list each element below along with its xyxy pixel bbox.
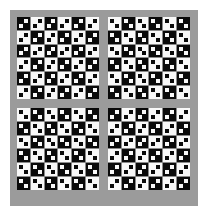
corner-dot [60, 93, 64, 97]
checker-cell [149, 108, 162, 121]
corner-dot [179, 19, 183, 23]
checker-cell [72, 108, 85, 121]
checker-cell [72, 136, 85, 149]
corner-dot [51, 47, 55, 51]
corner-dot [24, 170, 28, 174]
checker-cell [58, 122, 71, 135]
corner-dot [24, 156, 28, 160]
corner-dot [142, 110, 146, 114]
corner-dot [179, 115, 183, 119]
corner-dot [51, 184, 55, 188]
corner-dot [47, 24, 51, 28]
corner-dot [151, 74, 155, 78]
corner-dot [110, 74, 114, 78]
corner-dot [60, 165, 64, 169]
corner-dot [138, 156, 142, 160]
checker-cell [58, 136, 71, 149]
corner-dot [51, 19, 55, 23]
checker-cell [149, 72, 162, 85]
checker-cell [108, 122, 121, 135]
corner-dot [79, 115, 83, 119]
checker-cell [177, 45, 190, 58]
corner-dot [129, 65, 133, 69]
corner-dot [142, 38, 146, 42]
corner-dot [33, 110, 37, 114]
corner-dot [24, 115, 28, 119]
checker-cell [17, 122, 30, 135]
corner-dot [156, 93, 160, 97]
checker-cell [45, 163, 58, 176]
corner-dot [24, 129, 28, 133]
corner-dot [51, 142, 55, 146]
corner-dot [93, 156, 97, 160]
corner-dot [142, 179, 146, 183]
corner-dot [110, 142, 114, 146]
corner-dot [93, 170, 97, 174]
corner-dot [179, 156, 183, 160]
corner-dot [170, 24, 174, 28]
checker-cell [122, 31, 135, 44]
corner-dot [129, 165, 133, 169]
corner-dot [165, 170, 169, 174]
checker-cell [136, 86, 149, 99]
checker-cell [17, 163, 30, 176]
corner-dot [138, 47, 142, 51]
corner-dot [184, 51, 188, 55]
corner-dot [74, 24, 78, 28]
checker-cell [17, 45, 30, 58]
corner-dot [115, 79, 119, 83]
checker-cell [72, 58, 85, 71]
corner-dot [51, 74, 55, 78]
corner-dot [88, 138, 92, 142]
corner-dot [124, 19, 128, 23]
corner-dot [93, 88, 97, 92]
corner-dot [47, 93, 51, 97]
corner-dot [19, 110, 23, 114]
checker-cell [31, 177, 44, 190]
checker-cell [86, 58, 99, 71]
checker-cell [177, 149, 190, 162]
checker-cell [149, 122, 162, 135]
checker-cell [163, 45, 176, 58]
corner-dot [184, 151, 188, 155]
corner-dot [24, 47, 28, 51]
corner-dot [74, 151, 78, 155]
corner-dot [142, 151, 146, 155]
checker-cell [108, 58, 121, 71]
corner-dot [129, 151, 133, 155]
checker-cell [58, 177, 71, 190]
corner-dot [170, 179, 174, 183]
checker-cell [58, 45, 71, 58]
corner-dot [170, 65, 174, 69]
corner-dot [151, 33, 155, 37]
checker-cell [163, 163, 176, 176]
checker-cell [17, 58, 30, 71]
corner-dot [124, 115, 128, 119]
corner-dot [51, 115, 55, 119]
checker-cell [86, 136, 99, 149]
corner-dot [19, 138, 23, 142]
corner-dot [65, 33, 69, 37]
corner-dot [79, 33, 83, 37]
corner-dot [179, 74, 183, 78]
corner-dot [88, 165, 92, 169]
corner-dot [51, 60, 55, 64]
corner-dot [93, 115, 97, 119]
corner-dot [65, 60, 69, 64]
checker-cell [163, 58, 176, 71]
checker-cell [17, 149, 30, 162]
corner-dot [74, 138, 78, 142]
corner-dot [24, 60, 28, 64]
corner-dot [74, 179, 78, 183]
corner-dot [65, 19, 69, 23]
corner-dot [65, 115, 69, 119]
checker-cell [45, 149, 58, 162]
corner-dot [19, 38, 23, 42]
corner-dot [138, 129, 142, 133]
corner-dot [110, 156, 114, 160]
corner-dot [156, 110, 160, 114]
checker-cell [31, 72, 44, 85]
corner-dot [79, 19, 83, 23]
checker-cell [177, 177, 190, 190]
corner-dot [165, 19, 169, 23]
